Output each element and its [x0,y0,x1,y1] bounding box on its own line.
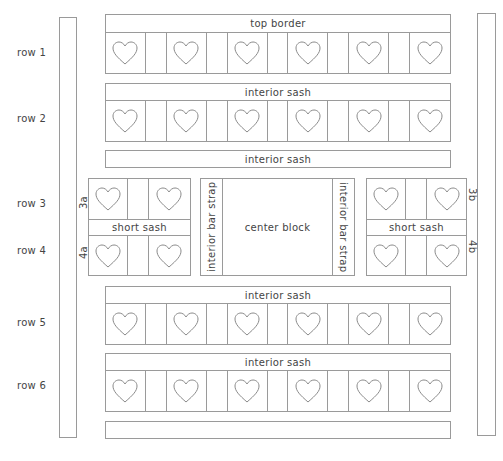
heart-icon [355,378,383,404]
heart-icon [233,40,261,66]
heart-icon [172,108,200,134]
spacer-block [128,178,149,220]
heart-icon [111,378,139,404]
heart-icon [416,311,444,337]
heart-block [410,33,450,73]
heart-row-3a [88,178,191,220]
heart-block [349,371,389,411]
spacer-block [406,235,427,276]
heart-row-3b [366,178,467,220]
spacer-block [268,371,289,411]
spacer-block [146,371,167,411]
heart-icon [155,243,183,269]
heart-block [288,33,328,73]
heart-block [88,235,128,276]
heart-block [167,33,207,73]
short-sash-left: short sash [88,219,191,236]
short-sash-right: short sash [366,219,467,236]
left-block-3a-4a: short sash [88,178,191,276]
right-side-border [477,13,496,436]
heart-block [366,178,406,220]
heart-icon [111,40,139,66]
heart-block [228,101,268,141]
heart-icon [355,108,383,134]
heart-block [366,235,406,276]
heart-row-6 [105,370,451,412]
heart-icon [111,311,139,337]
interior-sash-2: interior sash [105,150,451,168]
heart-block [167,304,207,344]
heart-icon [233,108,261,134]
spacer-block [406,178,427,220]
interior-sash-4: interior sash [105,353,451,371]
heart-row-2 [105,100,451,142]
spacer-block [389,371,410,411]
heart-icon [94,186,122,212]
spacer-block [207,33,228,73]
heart-block [106,371,146,411]
spacer-block [389,101,410,141]
spacer-block [128,235,149,276]
heart-icon [294,108,322,134]
heart-block [410,304,450,344]
heart-block [288,304,328,344]
heart-icon [433,243,461,269]
interior-sash-1: interior sash [105,83,451,101]
heart-icon [172,40,200,66]
interior-bar-strap-left: interior bar strap [200,178,223,276]
heart-icon [355,40,383,66]
heart-row-1 [105,32,451,74]
spacer-block [207,304,228,344]
heart-block [228,371,268,411]
heart-block [349,101,389,141]
heart-icon [294,311,322,337]
heart-block [288,371,328,411]
interior-bar-strap-right: interior bar strap [332,178,355,276]
label-4a: 4a [78,246,89,259]
heart-block [106,33,146,73]
spacer-block [146,304,167,344]
interior-sash-3: interior sash [105,286,451,304]
heart-block [228,33,268,73]
spacer-block [207,101,228,141]
spacer-block [328,101,349,141]
heart-icon [372,186,400,212]
heart-block [349,304,389,344]
heart-block [427,178,467,220]
heart-block [106,101,146,141]
label-4b: 4b [467,240,478,253]
row-label-5: row 5 [17,317,46,328]
spacer-block [207,371,228,411]
spacer-block [268,33,289,73]
heart-icon [172,378,200,404]
heart-row-4a [88,235,191,276]
row-label-3: row 3 [17,198,46,209]
heart-row-4b [366,235,467,276]
row-label-2: row 2 [17,113,46,124]
heart-block [288,101,328,141]
heart-block [427,235,467,276]
heart-block [349,33,389,73]
heart-row-5 [105,303,451,345]
top-border-strip: top border [105,14,451,33]
row-label-1: row 1 [17,47,46,58]
heart-icon [372,243,400,269]
heart-block [167,101,207,141]
label-3a: 3a [78,196,89,209]
center-block: center block [222,178,333,276]
heart-icon [294,40,322,66]
heart-block [88,178,128,220]
heart-icon [94,243,122,269]
spacer-block [389,304,410,344]
heart-icon [416,108,444,134]
spacer-block [328,371,349,411]
heart-icon [155,186,183,212]
heart-icon [172,311,200,337]
heart-icon [294,378,322,404]
spacer-block [146,101,167,141]
spacer-block [268,101,289,141]
row-label-4: row 4 [17,245,46,256]
heart-icon [233,378,261,404]
spacer-block [389,33,410,73]
heart-block [228,304,268,344]
